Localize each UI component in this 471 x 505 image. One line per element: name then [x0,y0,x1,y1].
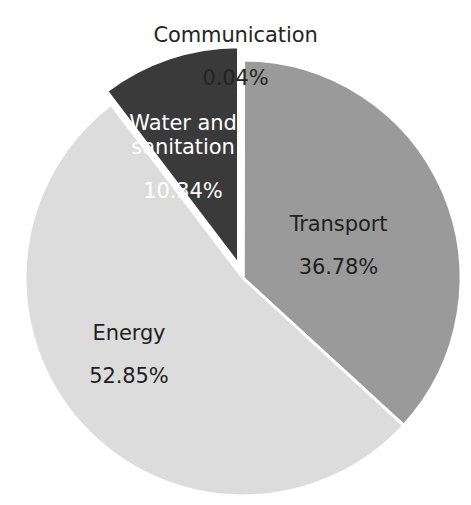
pie-label-energy-value: 52.85% [36,364,222,389]
pie-label-energy-name: Energy [36,321,222,346]
pie-label-transport-name: Transport [246,212,431,237]
pie-label-transport-value: 36.78% [246,255,431,280]
pie-label-transport: Transport 36.78% [246,193,431,298]
pie-label-water-and-sanitation-value: 10.34% [108,179,258,204]
pie-label-water-and-sanitation: Water and sanitation 10.34% [108,92,258,222]
pie-chart: Communication 0.04% Transport 36.78% Ene… [0,0,471,505]
pie-label-water-and-sanitation-name: Water and sanitation [108,111,258,160]
pie-label-energy: Energy 52.85% [36,302,222,407]
pie-label-communication-value: 0.04% [0,66,471,91]
pie-label-communication-name: Communication [0,23,471,48]
